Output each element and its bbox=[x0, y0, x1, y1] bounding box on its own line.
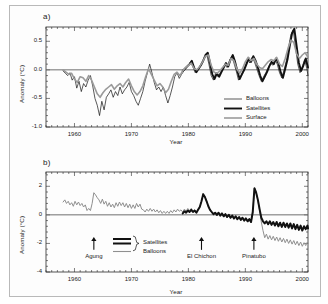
panel-a-y-tick-label: 0.0 bbox=[12, 66, 42, 72]
figure-root: a) Anomaly (°C) Year 1960197019801990200… bbox=[0, 0, 328, 304]
panel-b-series-balloons bbox=[63, 187, 308, 246]
volcano-label-agung: Agung bbox=[64, 253, 124, 259]
panel-a-series-surface bbox=[63, 40, 308, 97]
panel-b-legend-label-balloons: Balloons bbox=[143, 248, 166, 254]
panel-b-y-tick-label: 2 bbox=[12, 182, 42, 188]
volcano-arrow-head-el-chichon bbox=[199, 237, 204, 241]
panel-b-x-axis-title: Year bbox=[131, 288, 221, 295]
panel-a-x-tick-label: 2000 bbox=[287, 131, 317, 137]
volcano-arrow-head-pinatubo bbox=[251, 237, 256, 241]
panel-a-legend-label-balloons: Balloons bbox=[246, 95, 269, 101]
panel-a-x-tick-label: 1970 bbox=[116, 131, 146, 137]
panel-a-x-tick-label: 1960 bbox=[59, 131, 89, 137]
panel-b: b) Anomaly (°C) Year 1960197019801990200… bbox=[0, 150, 328, 304]
panel-b-x-tick-label: 2000 bbox=[287, 276, 317, 282]
panel-b-legend-bracket bbox=[133, 236, 139, 251]
panel-b-series-satellites bbox=[183, 188, 308, 230]
panel-a-plot bbox=[0, 0, 328, 152]
panel-b-y-tick-label: 0 bbox=[12, 211, 42, 217]
panel-a-legend-label-surface: Surface bbox=[246, 114, 267, 120]
panel-a: a) Anomaly (°C) Year 1960197019801990200… bbox=[0, 0, 328, 152]
panel-a-series-satellites bbox=[183, 29, 308, 82]
panel-b-plot bbox=[0, 150, 328, 304]
panel-a-y-tick-label: -0.5 bbox=[12, 94, 42, 100]
panel-a-x-axis-title: Year bbox=[131, 138, 221, 145]
volcano-arrow-head-agung bbox=[91, 237, 96, 241]
panel-b-x-tick-label: 1990 bbox=[230, 276, 260, 282]
panel-a-legend-label-satellites: Satellites bbox=[246, 105, 270, 111]
panel-a-x-tick-label: 1980 bbox=[173, 131, 203, 137]
panel-a-y-tick-label: -1.0 bbox=[12, 123, 42, 129]
panel-a-x-tick-label: 1990 bbox=[230, 131, 260, 137]
panel-a-series-balloons bbox=[63, 30, 308, 116]
panel-b-y-tick-label: -4 bbox=[12, 268, 42, 274]
panel-b-legend-label-satellites: Satellites bbox=[143, 239, 167, 245]
panel-b-x-tick-label: 1970 bbox=[116, 276, 146, 282]
panel-a-axes-frame bbox=[46, 27, 308, 127]
panel-b-x-tick-label: 1960 bbox=[59, 276, 89, 282]
volcano-label-el-chichon: El Chichon bbox=[171, 253, 231, 259]
panel-b-x-tick-label: 1980 bbox=[173, 276, 203, 282]
panel-a-y-tick-label: 0.5 bbox=[12, 37, 42, 43]
volcano-label-pinatubo: Pinatubo bbox=[224, 253, 284, 259]
panel-b-y-tick-label: -2 bbox=[12, 239, 42, 245]
